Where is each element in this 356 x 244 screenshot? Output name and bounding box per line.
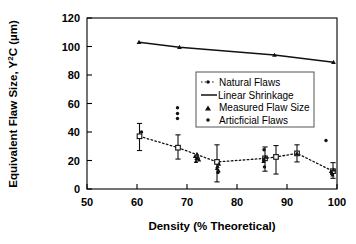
articficial-flaws-marker xyxy=(176,112,179,115)
legend-swatch-dot-artificial xyxy=(206,118,210,122)
x-tick-label: 50 xyxy=(81,196,93,208)
y-tick-label: 120 xyxy=(62,12,80,24)
series-natural-flaws xyxy=(137,123,336,181)
linear-shrinkage-line xyxy=(139,42,334,62)
articficial-flaws-marker xyxy=(176,106,179,109)
x-tick-label: 100 xyxy=(328,196,346,208)
natural-flaws-marker xyxy=(274,155,279,160)
x-tick-label: 70 xyxy=(181,196,193,208)
articficial-flaws-marker xyxy=(263,165,266,168)
y-axis-title-tail: C (µm) xyxy=(7,20,19,56)
y-tick-label: 100 xyxy=(62,41,80,53)
chart-figure: 020406080100120 5060708090100 Natural Fl… xyxy=(0,0,356,244)
articficial-flaws-marker xyxy=(262,148,265,151)
legend-entry-measured-flaw-size: Measured Flaw Size xyxy=(205,102,310,113)
y-axis-title: Equivalent Flaw Size, Y2C (µm) xyxy=(6,20,19,188)
natural-flaws-line xyxy=(140,136,334,171)
y-tick-label: 40 xyxy=(68,126,80,138)
x-axis-title: Density (% Theoretical) xyxy=(148,220,275,232)
legend-label-natural-flaws: Natural Flaws xyxy=(219,77,280,88)
legend-entry-articficial-flaws: Articficial Flaws xyxy=(206,115,288,126)
series-linear-shrinkage xyxy=(137,40,336,64)
y-axis-title-main: Equivalent Flaw Size, Y xyxy=(7,60,19,187)
x-tick-label: 90 xyxy=(281,196,293,208)
y-tick-label: 60 xyxy=(68,98,80,110)
articficial-flaws-marker xyxy=(140,130,143,133)
legend-label-articficial-flaws: Articficial Flaws xyxy=(219,115,288,126)
chart-legend: Natural Flaws Linear Shrinkage Measured … xyxy=(196,72,314,127)
articficial-flaws-marker xyxy=(216,171,219,174)
y-tick-label: 80 xyxy=(68,69,80,81)
legend-label-measured-flaw-size: Measured Flaw Size xyxy=(219,102,310,113)
natural-flaws-marker xyxy=(137,134,142,139)
chart-svg: 020406080100120 5060708090100 Natural Fl… xyxy=(0,0,356,244)
y-tick-label: 0 xyxy=(74,183,80,195)
x-tick-label: 80 xyxy=(231,196,243,208)
legend-swatch-dot xyxy=(206,80,209,83)
measured-flaw-size-marker xyxy=(195,152,199,156)
legend-label-linear-shrinkage: Linear Shrinkage xyxy=(218,90,294,101)
x-axis-ticks: 5060708090100 xyxy=(81,184,346,208)
x-tick-label: 60 xyxy=(131,196,143,208)
y-tick-label: 20 xyxy=(68,155,80,167)
articficial-flaws-marker xyxy=(176,117,179,120)
articficial-flaws-marker xyxy=(324,139,327,142)
natural-flaws-marker xyxy=(176,145,181,150)
